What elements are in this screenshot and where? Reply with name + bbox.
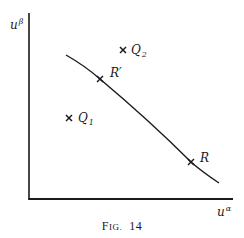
y-axis-label: uβ xyxy=(10,18,23,31)
x-axis-label: uα xyxy=(217,205,231,218)
point-r-label-base: R xyxy=(200,151,209,165)
point-q1-label-subscript: 1 xyxy=(89,118,94,127)
point-q2-label-subscript: 2 xyxy=(142,50,147,59)
point-r-label: R xyxy=(200,152,209,164)
x-axis-label-base: u xyxy=(217,205,225,219)
point-q2-label-base: Q xyxy=(131,43,141,57)
point-r-marker xyxy=(188,159,194,165)
x-axis-label-superscript: α xyxy=(226,204,231,213)
figure-caption: Fig. 14 xyxy=(0,219,244,234)
point-r-prime-label: R′ xyxy=(110,67,122,79)
caption-smallcaps: ig. xyxy=(109,222,122,232)
y-axis-label-base: u xyxy=(10,18,18,32)
y-axis-label-superscript: β xyxy=(19,17,24,26)
point-q2-marker xyxy=(120,47,126,53)
point-r-prime-marker xyxy=(97,76,103,82)
point-q1-label-base: Q xyxy=(78,111,88,125)
caption-prefix: F xyxy=(102,219,109,233)
diagram-canvas xyxy=(0,0,244,238)
point-q2-label: Q2 xyxy=(131,44,147,59)
caption-number: 14 xyxy=(129,219,142,233)
point-r-prime-label-base: R′ xyxy=(110,66,122,80)
point-q1-label: Q1 xyxy=(78,112,94,127)
point-q1-marker xyxy=(66,115,72,121)
figure: uβ uα Q2 R′ Q1 R Fig. 14 xyxy=(0,0,244,238)
